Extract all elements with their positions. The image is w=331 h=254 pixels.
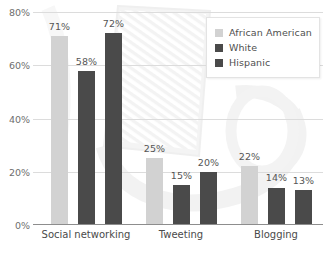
bar-social-networking-hispanic[interactable]: [105, 33, 122, 225]
bar-social-networking-white[interactable]: [78, 71, 95, 225]
y-tick-label-20: 20%: [0, 166, 30, 177]
bar-value-label: 71%: [49, 21, 70, 32]
x-category-label-tweeting: Tweeting: [159, 229, 203, 240]
bar-value-label: 58%: [76, 56, 97, 67]
bar-blogging-african-american[interactable]: [241, 166, 258, 225]
bar-value-label: 25%: [144, 143, 165, 154]
y-tick-label-60: 60%: [0, 60, 30, 71]
bar-value-label: 20%: [198, 157, 219, 168]
x-category-label-blogging: Blogging: [254, 229, 298, 240]
legend-item-label: African American: [229, 27, 312, 38]
bar-value-label: 22%: [239, 151, 260, 162]
legend-swatch-icon: [215, 44, 223, 52]
bar-blogging-hispanic[interactable]: [295, 190, 312, 225]
y-tick-label-80: 80%: [0, 7, 30, 18]
gridline-40: [33, 119, 323, 120]
bar-chart: 71% 58% 72% 25% 15% 20% 22% 14% 13% 80% …: [0, 0, 331, 254]
bar-value-label: 15%: [171, 170, 192, 181]
x-axis-line: [33, 224, 323, 226]
legend-item-hispanic[interactable]: Hispanic: [215, 55, 311, 70]
y-tick-label-0: 0%: [0, 220, 30, 231]
legend-item-label: Hispanic: [229, 57, 270, 68]
y-tick-label-40: 40%: [0, 113, 30, 124]
bar-value-label: 13%: [293, 175, 314, 186]
legend-swatch-icon: [215, 59, 223, 67]
gridline-80: [33, 12, 323, 13]
legend-item-white[interactable]: White: [215, 40, 311, 55]
legend-item-african-american[interactable]: African American: [215, 25, 311, 40]
bar-social-networking-african-american[interactable]: [51, 36, 68, 225]
legend: African American White Hispanic: [206, 17, 320, 78]
legend-swatch-icon: [215, 29, 223, 37]
bar-tweeting-white[interactable]: [173, 185, 190, 225]
legend-item-label: White: [229, 42, 257, 53]
bar-tweeting-african-american[interactable]: [146, 158, 163, 225]
x-category-label-social-networking: Social networking: [42, 229, 131, 240]
bar-blogging-white[interactable]: [268, 188, 285, 225]
bar-value-label: 72%: [103, 18, 124, 29]
bar-tweeting-hispanic[interactable]: [200, 172, 217, 225]
bar-value-label: 14%: [266, 172, 287, 183]
